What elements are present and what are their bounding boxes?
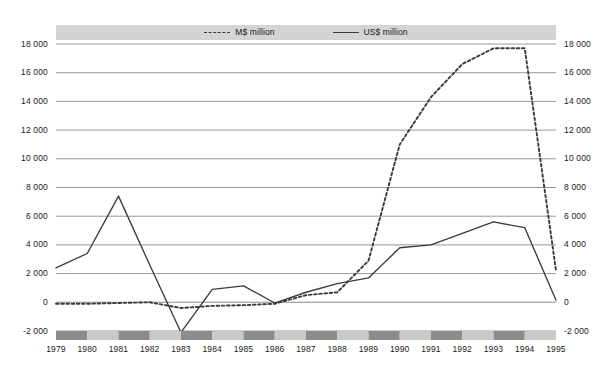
axis-band-segment: [119, 331, 150, 340]
axis-band-segment: [56, 331, 87, 340]
x-tick-label: 1983: [164, 345, 198, 354]
y-tick-label: 16 000: [0, 68, 48, 77]
axis-band-segment: [462, 331, 493, 340]
axis-band-segment: [244, 331, 275, 340]
axis-band-segment: [181, 331, 212, 340]
y-tick-label: 4 000: [0, 240, 48, 249]
series-line-m-dollar: [56, 48, 556, 308]
x-tick-label: 1984: [195, 345, 229, 354]
y-tick-label: 8 000: [0, 183, 48, 192]
x-tick-label: 1982: [133, 345, 167, 354]
y-tick-label: 6 000: [0, 212, 48, 221]
x-tick-label: 1987: [289, 345, 323, 354]
x-tick-label: 1989: [352, 345, 386, 354]
x-tick-label: 1981: [102, 345, 136, 354]
axis-band-segment: [369, 331, 400, 340]
gridlines: [56, 44, 556, 331]
axis-band-segment: [525, 331, 556, 340]
y-tick-label: -2 000: [564, 327, 615, 336]
y-tick-label: 12 000: [0, 126, 48, 135]
y-tick-label: 6 000: [564, 212, 615, 221]
y-tick-label: 14 000: [0, 97, 48, 106]
y-tick-label: -2 000: [0, 327, 48, 336]
y-tick-label: 18 000: [0, 40, 48, 49]
y-tick-label: 2 000: [564, 269, 615, 278]
x-tick-label: 1986: [258, 345, 292, 354]
y-tick-label: 0: [564, 298, 615, 307]
series-lines: [56, 48, 556, 332]
plot-canvas: [0, 0, 615, 367]
axis-band-segment: [275, 331, 306, 340]
axis-band-segment: [400, 331, 431, 340]
x-tick-label: 1988: [320, 345, 354, 354]
axis-band-segment: [87, 331, 118, 340]
axis-band-segment: [337, 331, 368, 340]
y-tick-label: 8 000: [564, 183, 615, 192]
axis-band-segment: [150, 331, 181, 340]
x-tick-label: 1991: [414, 345, 448, 354]
y-tick-label: 4 000: [564, 240, 615, 249]
y-tick-label: 18 000: [564, 40, 615, 49]
y-tick-label: 10 000: [564, 154, 615, 163]
x-tick-label: 1979: [39, 345, 73, 354]
axis-band-segment: [431, 331, 462, 340]
x-axis-band-strip: [56, 331, 556, 340]
y-tick-label: 12 000: [564, 126, 615, 135]
y-tick-label: 16 000: [564, 68, 615, 77]
axis-band-segment: [494, 331, 525, 340]
x-tick-label: 1980: [70, 345, 104, 354]
x-tick-label: 1995: [539, 345, 573, 354]
axis-band-segment: [212, 331, 243, 340]
x-tick-label: 1985: [227, 345, 261, 354]
x-tick-label: 1994: [508, 345, 542, 354]
x-tick-label: 1993: [477, 345, 511, 354]
line-chart: M$ million US$ million -2 00002 0004 000…: [0, 0, 615, 367]
y-tick-label: 0: [0, 298, 48, 307]
x-tick-label: 1990: [383, 345, 417, 354]
axis-band-segment: [306, 331, 337, 340]
y-tick-label: 2 000: [0, 269, 48, 278]
y-tick-label: 10 000: [0, 154, 48, 163]
y-tick-label: 14 000: [564, 97, 615, 106]
x-tick-label: 1992: [445, 345, 479, 354]
